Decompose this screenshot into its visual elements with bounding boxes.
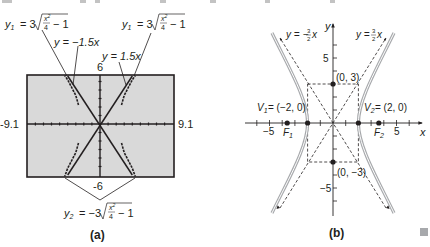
a-ymax-label: 6 xyxy=(97,61,103,73)
a-xmin-label: -9.1 xyxy=(0,118,19,130)
svg-text:4: 4 xyxy=(44,24,48,31)
a-caption: (a) xyxy=(90,228,105,242)
svg-text:− 1: − 1 xyxy=(118,207,134,219)
hyperbola-figure: 6 -6 -9.1 9.1 y1 = 3 x2 4 − 1 y1 = 3 x2 xyxy=(0,0,430,247)
svg-text:y1: y1 xyxy=(4,18,15,31)
b-caption: (b) xyxy=(329,226,344,240)
svg-text:x2: x2 xyxy=(108,202,116,211)
b-tick-y-neg: −5 xyxy=(320,183,332,194)
svg-text:x: x xyxy=(376,29,383,40)
b-x-axis-label: x xyxy=(419,126,426,138)
svg-text:= 3: = 3 xyxy=(20,18,36,30)
svg-text:x: x xyxy=(311,29,318,40)
svg-text:y =: y = xyxy=(355,29,370,40)
svg-text:V1: V1 xyxy=(257,102,268,114)
svg-text:V2: V2 xyxy=(364,102,375,114)
b-label-asymptote-right: y = 3 2 x xyxy=(355,28,383,42)
a-label-y2: y2 = −3 x2 4 − 1 xyxy=(63,202,134,220)
a-ymin-label: -6 xyxy=(93,180,103,192)
svg-text:F1: F1 xyxy=(283,127,293,139)
b-label-top-point: (0, 3) xyxy=(336,72,359,83)
svg-text:= (2, 0): = (2, 0) xyxy=(375,102,407,113)
b-tick-x-pos: 5 xyxy=(394,126,400,137)
point-bottom-vertex-box xyxy=(330,159,335,164)
svg-text:4: 4 xyxy=(161,24,165,31)
b-label-asymptote-left: y = − 3 2 x xyxy=(285,28,318,42)
point-v1 xyxy=(305,120,310,125)
b-tick-y-pos: 5 xyxy=(323,53,329,64)
a-label-y1-left: y1 = 3 x2 4 − 1 xyxy=(4,13,69,31)
svg-text:2: 2 xyxy=(307,36,311,42)
svg-text:F2: F2 xyxy=(374,127,384,139)
svg-text:= (−2, 0): = (−2, 0) xyxy=(268,102,306,113)
svg-text:= −3: = −3 xyxy=(79,207,101,219)
b-y-axis-label: y xyxy=(324,20,332,32)
point-v2 xyxy=(356,120,361,125)
panel-a: 6 -6 -9.1 9.1 y1 = 3 x2 4 − 1 y1 = 3 x2 xyxy=(0,13,193,242)
b-label-v2: V2 = (2, 0) xyxy=(364,102,407,114)
svg-text:2: 2 xyxy=(372,36,376,42)
a-label-y1-right: y1 = 3 x2 4 − 1 xyxy=(121,13,186,31)
svg-text:y2: y2 xyxy=(63,207,74,220)
panel-b: y x −5 5 5 −5 (0, 3) (0, −3) V1 = (−2, 0… xyxy=(245,20,426,240)
a-label-neg-asymptote: y = −1.5x xyxy=(53,36,100,48)
svg-text:3: 3 xyxy=(307,28,311,34)
svg-text:3: 3 xyxy=(372,28,376,34)
point-f2 xyxy=(376,120,381,125)
svg-text:− 1: − 1 xyxy=(170,18,186,30)
a-label-pos-asymptote: y = 1.5x xyxy=(101,50,141,62)
a-xmax-label: 9.1 xyxy=(178,118,193,130)
b-label-f1: F1 xyxy=(283,127,293,139)
svg-text:x2: x2 xyxy=(160,13,168,22)
b-label-f2: F2 xyxy=(374,127,384,139)
svg-text:= 3: = 3 xyxy=(137,18,153,30)
cropped-text-strip xyxy=(2,0,335,3)
svg-text:x2: x2 xyxy=(43,13,51,22)
svg-text:y1: y1 xyxy=(121,18,132,31)
b-tick-x-neg: −5 xyxy=(263,126,275,137)
svg-text:4: 4 xyxy=(109,213,113,220)
point-f1 xyxy=(285,120,290,125)
svg-text:− 1: − 1 xyxy=(53,18,69,30)
point-top-vertex-box xyxy=(330,81,335,86)
svg-text:y = −: y = − xyxy=(285,29,308,40)
b-label-bottom-point: (0, −3) xyxy=(337,167,366,178)
end-marker-square xyxy=(420,228,428,236)
b-label-v1: V1 = (−2, 0) xyxy=(257,102,306,114)
